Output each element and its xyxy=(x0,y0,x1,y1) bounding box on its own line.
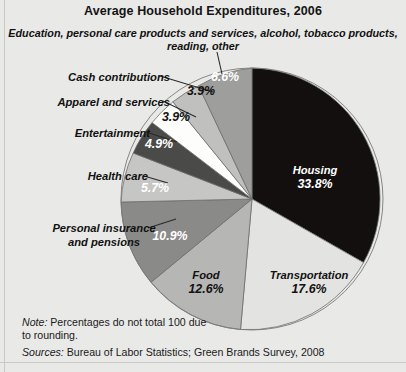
slice-label-food-name: Food xyxy=(168,268,244,282)
slice-label-apparel-value-group: 3.9% xyxy=(147,110,205,124)
callout-label-education: Education, personal care products and se… xyxy=(0,27,406,53)
slice-label-personal-insurance-value-group: 10.9% xyxy=(136,229,204,243)
callout-label-cash-contributions: Cash contributions xyxy=(68,71,170,84)
callout-label-apparel-and-services: Apparel and services xyxy=(57,96,170,109)
chart-sources-text: Bureau of Labor Statistics; Green Brands… xyxy=(64,346,325,358)
slice-label-transportation-value: 17.6% xyxy=(252,282,366,296)
chart-sources-label: Sources: xyxy=(22,346,64,358)
slice-label-housing: Housing 33.8% xyxy=(268,163,362,191)
chart-note-label: Note: xyxy=(22,316,47,328)
slice-label-transportation: Transportation 17.6% xyxy=(252,268,366,296)
slice-label-entertainment-value-group: 4.9% xyxy=(130,137,188,151)
slice-label-health-care-value-group: 5.7% xyxy=(125,181,185,195)
slice-label-personal-insurance-value: 10.9% xyxy=(136,229,204,243)
slice-label-cash-contributions-value: 3.9% xyxy=(172,84,230,98)
chart-note: Note: Percentages do not total 100 due t… xyxy=(22,316,212,343)
slice-label-housing-value: 33.8% xyxy=(268,177,362,191)
slice-label-cash-contributions-value-group: 3.9% xyxy=(172,84,230,98)
slice-label-entertainment-value: 4.9% xyxy=(130,137,188,151)
chart-sources: Sources: Bureau of Labor Statistics; Gre… xyxy=(22,346,402,359)
slice-label-apparel-value: 3.9% xyxy=(147,110,205,124)
slice-label-food-value: 12.6% xyxy=(168,282,244,296)
slice-label-education-value-group: 6.6% xyxy=(196,70,254,84)
slice-label-housing-name: Housing xyxy=(268,163,362,177)
pie-chart-figure: Average Household Expenditures, 2006 Edu… xyxy=(0,0,406,372)
slice-label-food: Food 12.6% xyxy=(168,268,244,296)
chart-note-text: Percentages do not total 100 due to roun… xyxy=(22,316,206,341)
slice-label-transportation-name: Transportation xyxy=(252,268,366,282)
slice-label-health-care-value: 5.7% xyxy=(125,181,185,195)
slice-label-education-value: 6.6% xyxy=(196,70,254,84)
